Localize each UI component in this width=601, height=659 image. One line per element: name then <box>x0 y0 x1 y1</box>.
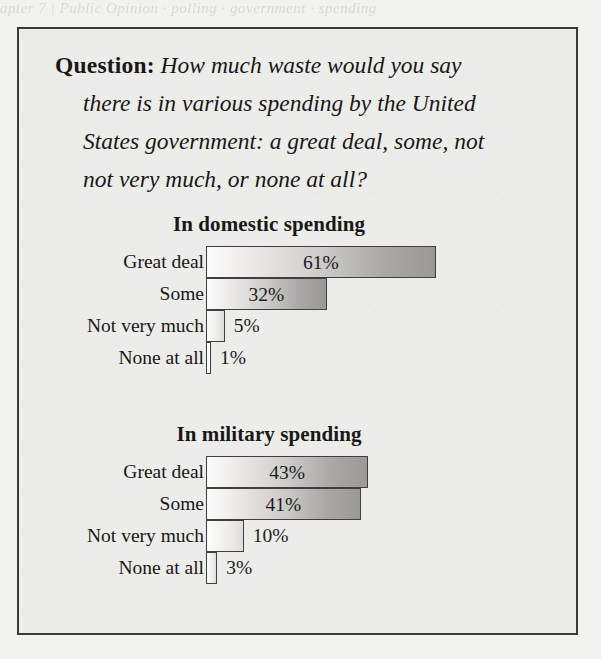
question-line-4: not very much, or none at all? <box>47 160 547 198</box>
bar-track: 5% <box>206 310 576 342</box>
bar-category-label: Not very much <box>19 310 204 342</box>
bar-track: 3% <box>206 552 576 584</box>
chart-rows: Great deal43%Some41%Not very much10%None… <box>19 456 576 584</box>
bar-value-label: 41% <box>207 489 360 521</box>
bar-row: Some32% <box>19 278 576 310</box>
question-line-1: Question: How much waste would you say <box>47 46 547 84</box>
bar-value-label: 61% <box>207 247 435 279</box>
bar-track: 61% <box>206 246 576 278</box>
bar-track: 1% <box>206 342 576 374</box>
bar <box>206 342 211 374</box>
bar-track: 41% <box>206 488 576 520</box>
bar-row: None at all3% <box>19 552 576 584</box>
bar-track: 43% <box>206 456 576 488</box>
bar-category-label: Great deal <box>19 456 204 488</box>
chart-rows: Great deal61%Some32%Not very much5%None … <box>19 246 576 374</box>
bar-value-label: 32% <box>207 279 326 311</box>
bar-row: None at all1% <box>19 342 576 374</box>
chart-title: In domestic spending <box>19 212 519 237</box>
bar-category-label: Great deal <box>19 246 204 278</box>
bar: 43% <box>206 456 368 488</box>
question-label: Question: <box>55 52 155 78</box>
question-line-1-text: How much waste would you say <box>161 52 462 78</box>
bar <box>206 520 244 552</box>
question-line-2: there is in various spending by the Unit… <box>47 84 547 122</box>
bar-value-label: 1% <box>220 342 246 374</box>
bar: 61% <box>206 246 436 278</box>
bar: 32% <box>206 278 327 310</box>
bar: 41% <box>206 488 361 520</box>
bar-category-label: None at all <box>19 552 204 584</box>
bar-value-label: 3% <box>226 552 252 584</box>
bar-category-label: None at all <box>19 342 204 374</box>
bar <box>206 552 217 584</box>
question-line-3: States government: a great deal, some, n… <box>47 122 547 160</box>
question-block: Question: How much waste would you say t… <box>47 46 547 198</box>
bar-value-label: 5% <box>234 310 260 342</box>
page-bleed-text: apter 7 | Public Opinion · polling · gov… <box>0 0 601 22</box>
bar-row: Not very much5% <box>19 310 576 342</box>
bar-value-label: 43% <box>207 457 367 489</box>
bar-row: Some41% <box>19 488 576 520</box>
bar-category-label: Not very much <box>19 520 204 552</box>
bar-track: 32% <box>206 278 576 310</box>
bar-value-label: 10% <box>253 520 289 552</box>
bar-row: Not very much10% <box>19 520 576 552</box>
chart-title: In military spending <box>19 422 519 447</box>
bar-track: 10% <box>206 520 576 552</box>
bar-row: Great deal61% <box>19 246 576 278</box>
bar-category-label: Some <box>19 278 204 310</box>
bar-category-label: Some <box>19 488 204 520</box>
bar-row: Great deal43% <box>19 456 576 488</box>
bar <box>206 310 225 342</box>
figure-frame: Question: How much waste would you say t… <box>17 27 578 635</box>
